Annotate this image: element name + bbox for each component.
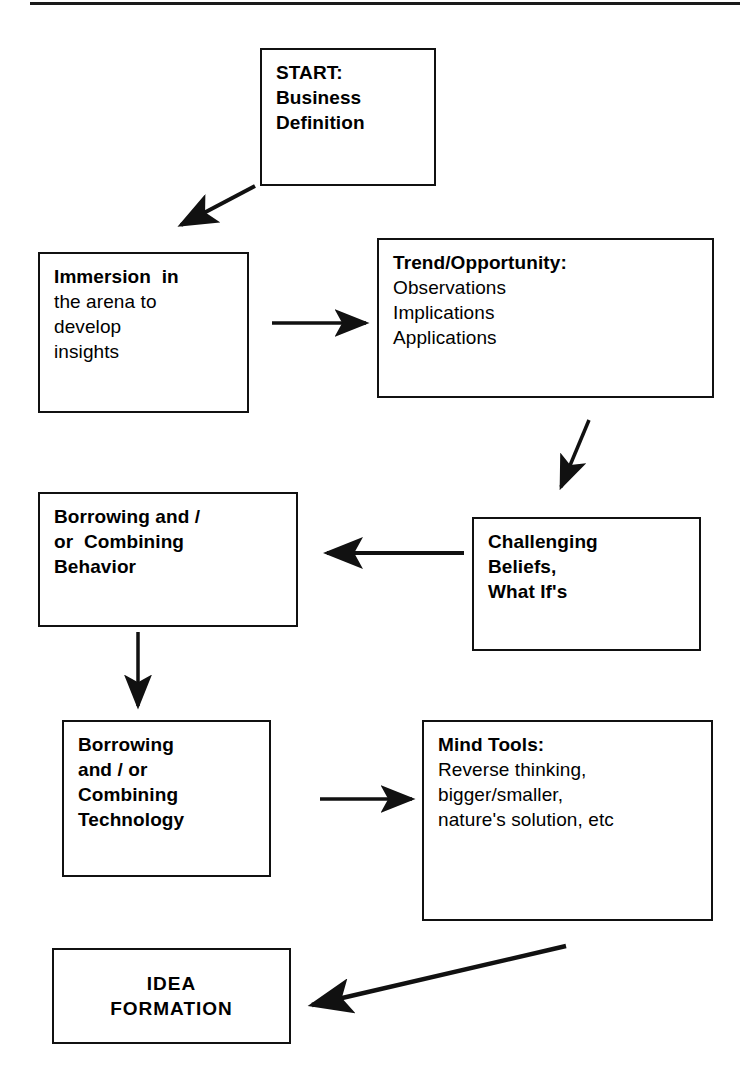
node-line: insights — [54, 339, 235, 364]
node-line: the arena to — [54, 289, 235, 314]
node-mind-tools[interactable]: Mind Tools: Reverse thinking, bigger/sma… — [422, 720, 713, 921]
node-line: bigger/smaller, — [438, 782, 699, 807]
node-line: Implications — [393, 300, 700, 325]
edge-trend-to-challenging — [561, 420, 589, 487]
node-line: Observations — [393, 275, 700, 300]
node-line: Challenging — [488, 529, 687, 554]
node-trend-opportunity[interactable]: Trend/Opportunity: Observations Implicat… — [377, 238, 714, 398]
node-line: Borrowing and / — [54, 504, 284, 529]
node-challenging-beliefs[interactable]: Challenging Beliefs, What If's — [472, 517, 701, 651]
flowchart-canvas: START: Business Definition Immersion in … — [0, 0, 752, 1089]
node-line: nature's solution, etc — [438, 807, 699, 832]
node-line: Borrowing — [78, 732, 257, 757]
node-line: What If's — [488, 579, 687, 604]
node-line: IDEA — [54, 971, 289, 996]
node-immersion-in-arena[interactable]: Immersion in the arena to develop insigh… — [38, 252, 249, 413]
edge-start-to-immersion — [181, 186, 255, 225]
node-line: Trend/Opportunity: — [393, 250, 700, 275]
node-line: and / or — [78, 757, 257, 782]
node-line: Business — [276, 85, 422, 110]
node-idea-formation[interactable]: IDEA FORMATION — [52, 948, 291, 1044]
node-line: Reverse thinking, — [438, 757, 699, 782]
node-line: START: — [276, 60, 422, 85]
node-borrowing-combining-behavior[interactable]: Borrowing and / or Combining Behavior — [38, 492, 298, 627]
node-line: Behavior — [54, 554, 284, 579]
node-line: Beliefs, — [488, 554, 687, 579]
top-divider-rule — [30, 2, 740, 5]
node-line: develop — [54, 314, 235, 339]
node-borrowing-combining-technology[interactable]: Borrowing and / or Combining Technology — [62, 720, 271, 877]
node-line: Immersion in — [54, 264, 235, 289]
edge-mind-tools-to-idea-formation — [312, 946, 566, 1005]
node-line: Technology — [78, 807, 257, 832]
node-start-business-definition[interactable]: START: Business Definition — [260, 48, 436, 186]
node-line: Definition — [276, 110, 422, 135]
node-line: or Combining — [54, 529, 284, 554]
node-line: Applications — [393, 325, 700, 350]
node-line: FORMATION — [54, 996, 289, 1021]
node-line: Combining — [78, 782, 257, 807]
node-line: Mind Tools: — [438, 732, 699, 757]
